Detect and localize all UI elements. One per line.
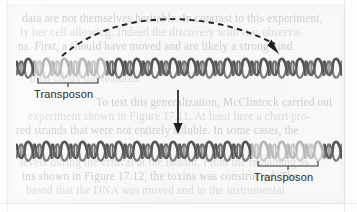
transposon-label-top: Transposon <box>34 88 93 100</box>
transposon-bracket-bottom <box>257 161 319 171</box>
transposon-bracket-top <box>37 78 99 88</box>
transposon-label-bottom: Transposon <box>254 171 313 183</box>
transposon-figure: data are not themselves heritable. In co… <box>0 0 357 212</box>
